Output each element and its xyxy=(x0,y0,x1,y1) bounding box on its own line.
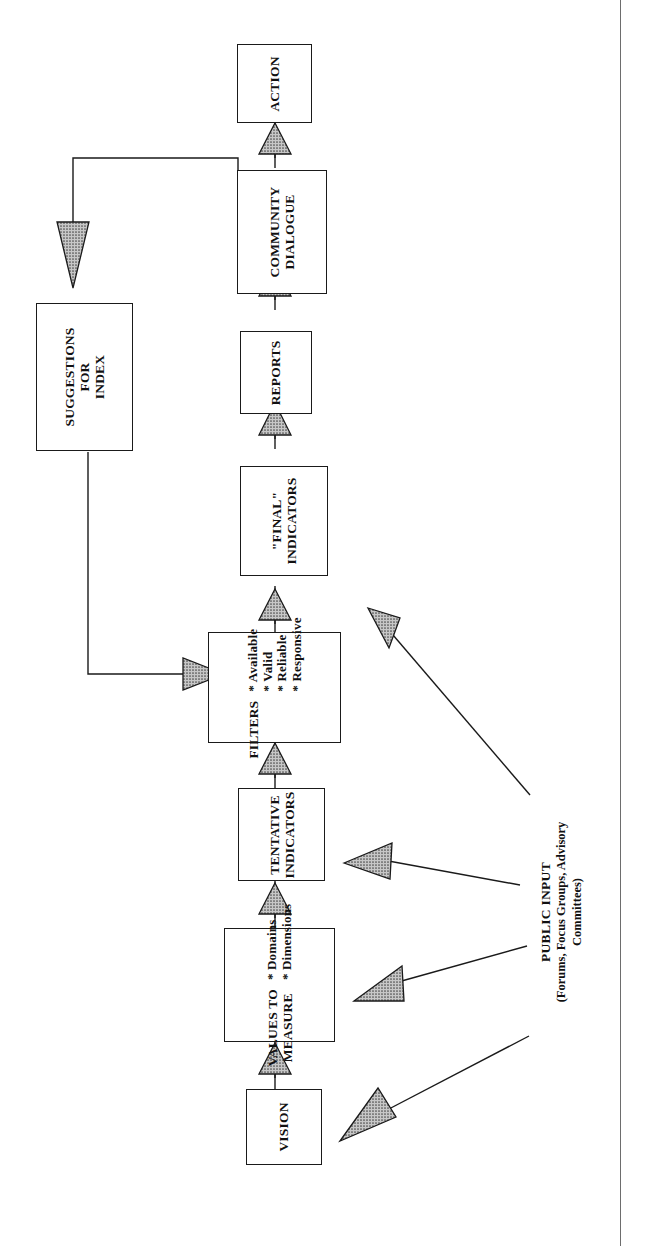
node-vision[interactable]: VISION xyxy=(246,1089,322,1165)
node-community-dialogue-label: COMMUNITY DIALOGUE xyxy=(267,186,297,277)
node-suggestions-for-index[interactable]: SUGGESTIONS FOR INDEX xyxy=(36,303,133,451)
node-final-indicators[interactable]: "FINAL" INDICATORS xyxy=(240,466,328,576)
diagram-page: ACTION COMMUNITY DIALOGUE REPORTS "FINAL… xyxy=(0,0,651,1246)
node-community-dialogue[interactable]: COMMUNITY DIALOGUE xyxy=(237,170,327,294)
node-values-to-measure[interactable]: VALUES TO MEASURE * Domains * Dimensions xyxy=(224,928,335,1042)
node-filters[interactable]: FILTERS * Available * Valid * Reliable *… xyxy=(208,632,341,743)
public-input-annotation: PUBLIC INPUT (Forums, Focus Groups, Advi… xyxy=(472,822,651,1002)
node-reports[interactable]: REPORTS xyxy=(240,331,312,414)
node-final-indicators-label: "FINAL" INDICATORS xyxy=(269,477,299,564)
public-input-subtitle-line1: (Forums, Focus Groups, Advisory xyxy=(554,822,570,1003)
node-vision-label: VISION xyxy=(276,1102,291,1151)
feedback-loop-lower xyxy=(88,452,183,674)
public-input-subtitle-line2: Committees) xyxy=(570,822,586,1003)
public-input-title: PUBLIC INPUT xyxy=(538,822,554,1003)
node-tentative-indicators-label: TENTATIVE INDICATORS xyxy=(266,791,296,878)
node-reports-label: REPORTS xyxy=(268,340,283,405)
node-action[interactable]: ACTION xyxy=(237,44,312,123)
node-values-to-measure-label: VALUES TO MEASURE * Domains * Dimensions xyxy=(264,904,294,1067)
node-filters-label: FILTERS * Available * Valid * Reliable *… xyxy=(245,617,303,758)
feedback-loop-upper xyxy=(73,158,238,222)
public-input-arrowheads xyxy=(340,608,404,1141)
node-action-label: ACTION xyxy=(267,56,282,111)
node-tentative-indicators[interactable]: TENTATIVE INDICATORS xyxy=(238,788,325,881)
node-suggestions-for-index-label: SUGGESTIONS FOR INDEX xyxy=(62,328,107,427)
feedback-arrowhead-down xyxy=(57,222,89,288)
